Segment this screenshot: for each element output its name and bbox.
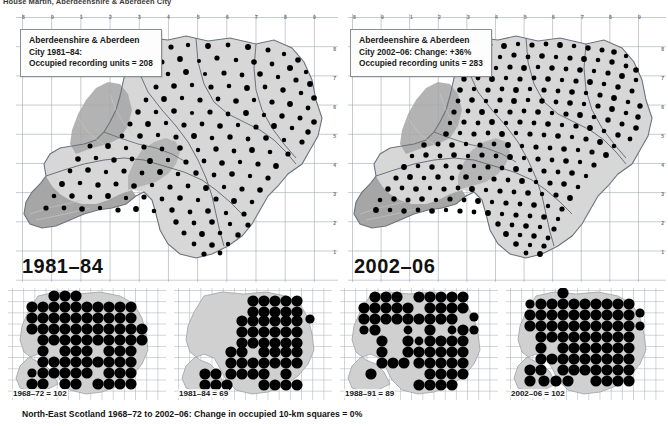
small-map-label-1981-84: 1981–84 = 69 (178, 389, 229, 398)
figure-caption: North-East Scotland 1968–72 to 2002–06: … (22, 409, 362, 419)
legend-line-region: Aberdeenshire & Aberdeen (359, 35, 483, 47)
small-map-label-text: 1981–84 = (179, 389, 219, 398)
small-map-label-1988-91: 1988–91 = 89 (344, 389, 395, 398)
distribution-map-figure: House Martin, Aberdeenshire & Aberdeen C… (0, 0, 668, 426)
legend-change-label: City 2002–06: Change: (359, 47, 450, 57)
small-map-1988-91: 1988–91 = 89 (340, 288, 498, 400)
small-map-label-1968-72: 1968–72 = 102 (12, 389, 68, 398)
legend-units-value: 208 (139, 58, 153, 68)
small-map-label-value: 102 (551, 389, 564, 398)
map-x-axis-ticks-2002-06: 8 9 1 2 3 4 5 6 7 8 9 (348, 14, 666, 24)
legend-change-value: +36% (450, 47, 471, 57)
legend-line-units: Occupied recording units = 208 (29, 58, 153, 69)
figure-top-caption-fragment: House Martin, Aberdeenshire & Aberdeen C… (3, 0, 333, 6)
legend-line-region: Aberdeenshire & Aberdeen (29, 35, 153, 47)
main-map-2002-06: 8 9 1 2 3 4 5 6 7 8 9 8 7 6 5 4 3 2 1 Ab… (348, 14, 666, 282)
small-map-dots-1988-91 (340, 288, 498, 400)
small-map-label-text: 1968–72 = (13, 389, 53, 398)
small-map-1981-84: 1981–84 = 69 (174, 288, 332, 400)
small-map-label-text: 2002–06 = (511, 389, 551, 398)
legend-line-change: City 2002–06: Change: +36% (359, 47, 483, 58)
small-map-2002-06: 2002–06 = 102 (506, 288, 664, 400)
small-map-dots-1981-84 (174, 288, 332, 400)
small-map-label-2002-06: 2002–06 = 102 (510, 389, 566, 398)
small-map-dots-1968-72 (8, 288, 166, 400)
map-x-axis-ticks-1981-84: 8 9 1 2 3 4 5 6 7 8 9 (16, 14, 338, 24)
legend-box-1981-84: Aberdeenshire & Aberdeen City 1981–84: O… (20, 29, 162, 77)
legend-line-period: City 1981–84: (29, 47, 153, 58)
year-label-1981-84: 1981–84 (22, 255, 103, 278)
legend-units-label: Occupied recording units = (359, 58, 469, 68)
legend-units-label: Occupied recording units = (29, 58, 139, 68)
legend-line-units: Occupied recording units = 283 (359, 58, 483, 69)
legend-box-2002-06: Aberdeenshire & Aberdeen City 2002–06: C… (350, 29, 492, 77)
main-map-1981-84: 8 9 1 2 3 4 5 6 7 8 9 8 7 6 5 4 3 2 1 Ab… (16, 14, 338, 282)
small-map-1968-72: 1968–72 = 102 (8, 288, 166, 400)
small-map-label-value: 69 (219, 389, 228, 398)
map-y-axis-ticks-2002-06: 8 7 6 5 4 3 2 1 (655, 14, 665, 282)
small-map-label-value: 89 (385, 389, 394, 398)
map-y-axis-ticks-1981-84: 8 7 6 5 4 3 2 1 (327, 14, 337, 282)
year-label-2002-06: 2002–06 (354, 255, 435, 278)
small-map-label-value: 102 (53, 389, 66, 398)
legend-units-value: 283 (469, 58, 483, 68)
small-map-label-text: 1988–91 = (345, 389, 385, 398)
small-map-dots-2002-06 (506, 288, 664, 400)
